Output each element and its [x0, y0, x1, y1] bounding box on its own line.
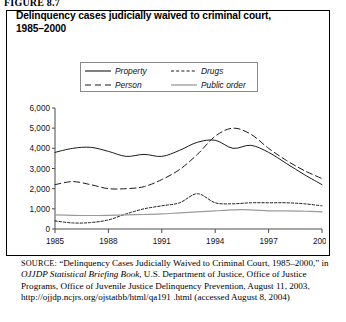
source-note: SOURCE: “Delinquency Cases Judicially Wa… [21, 258, 329, 304]
figure-container: FIGURE 8.7 Delinquency cases judicially … [0, 0, 346, 322]
x-axis-tick-marks [55, 229, 322, 233]
source-italic-title: OJJDP Statistical Briefing Book, [21, 269, 142, 279]
legend-label-property: Property [115, 67, 147, 76]
x-tick-label: 1985 [46, 237, 65, 246]
legend-item-person: Person [85, 78, 171, 92]
chart-svg: 6,0005,0004,0003,0002,0001,0000 19851988… [10, 100, 326, 250]
line-dashed-dark-icon [85, 81, 111, 89]
chart-title-line-1: Delinquency cases judicially waived to c… [16, 9, 306, 22]
legend-item-property: Property [85, 64, 171, 78]
series-line-public-order [55, 210, 322, 216]
x-tick-label: 1994 [206, 237, 225, 246]
chart-title: Delinquency cases judicially waived to c… [16, 9, 306, 35]
legend-item-drugs: Drugs [171, 64, 263, 78]
chart-legend: Property Drugs Person Public order [80, 62, 258, 92]
x-axis-tick-labels: 198519881991199419972000 [46, 237, 326, 246]
x-tick-label: 1991 [153, 237, 172, 246]
y-axis-tick-labels: 6,0005,0004,0003,0002,0001,0000 [30, 104, 51, 234]
x-tick-label: 1997 [259, 237, 278, 246]
source-text-1: “Delinquency Cases Judicially Waived to … [57, 258, 329, 268]
legend-label-drugs: Drugs [201, 67, 223, 76]
chart-title-line-2: 1985–2000 [16, 22, 306, 35]
line-dotted-dark-icon [171, 67, 197, 75]
y-tick-label: 1,000 [30, 205, 51, 214]
y-tick-label: 4,000 [30, 144, 51, 153]
series-line-property [55, 140, 322, 185]
source-kicker: SOURCE: [21, 259, 57, 268]
y-tick-label: 6,000 [30, 104, 51, 113]
y-tick-label: 0 [45, 225, 50, 234]
figure-label: FIGURE 8.7 [4, 0, 60, 8]
line-solid-gray-icon [171, 81, 197, 89]
x-tick-label: 1988 [99, 237, 118, 246]
chart-series-lines [55, 128, 322, 223]
y-tick-label: 5,000 [30, 124, 51, 133]
legend-label-public-order: Public order [201, 81, 246, 90]
x-tick-label: 2000 [313, 237, 326, 246]
series-line-person [55, 128, 322, 189]
y-tick-label: 3,000 [30, 165, 51, 174]
y-tick-label: 2,000 [30, 185, 51, 194]
legend-item-public-order: Public order [171, 78, 263, 92]
legend-label-person: Person [115, 81, 142, 90]
chart-plot-area: 6,0005,0004,0003,0002,0001,0000 19851988… [10, 100, 326, 250]
series-line-drugs [55, 194, 322, 223]
line-solid-dark-icon [85, 67, 111, 75]
